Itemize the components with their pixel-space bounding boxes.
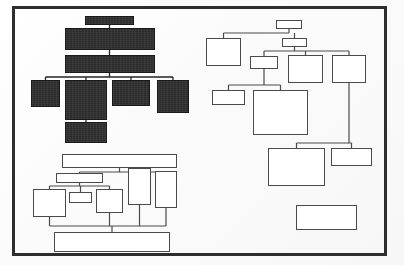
- node-r-root: [276, 20, 302, 29]
- node-tl-leaf-4: [157, 80, 189, 113]
- node-tl-leaf-2: [65, 80, 107, 120]
- node-tl-subleaf: [65, 122, 107, 143]
- scanned-diagram-page: [0, 0, 404, 265]
- node-bl-big-left: [33, 189, 66, 217]
- node-r-sub-big: [253, 90, 308, 135]
- node-r-lower-small: [331, 148, 372, 166]
- node-tl-level2: [65, 28, 155, 50]
- node-bl-tall-2: [155, 171, 177, 208]
- node-bl-bottom-bar: [54, 232, 170, 252]
- node-bl-mid-box: [96, 189, 123, 213]
- node-bl-wide-1: [56, 173, 103, 183]
- node-r-left-big: [206, 38, 241, 66]
- node-r-lower-big: [268, 148, 325, 186]
- node-r-right-box: [332, 55, 366, 83]
- node-tl-level3: [65, 55, 155, 73]
- node-bl-small-mid: [69, 192, 92, 203]
- node-r-isolated: [296, 205, 357, 230]
- node-r-mid-bar: [250, 56, 278, 69]
- node-r-center-box: [288, 55, 323, 83]
- node-bl-top-bar: [62, 154, 177, 168]
- node-bl-tall-1: [128, 168, 151, 205]
- node-r-level2: [282, 38, 307, 47]
- node-r-sub-left: [212, 90, 245, 105]
- nodes-layer: [0, 0, 404, 265]
- node-tl-leaf-1: [31, 80, 60, 107]
- node-tl-root: [85, 16, 134, 25]
- node-tl-leaf-3: [112, 80, 150, 106]
